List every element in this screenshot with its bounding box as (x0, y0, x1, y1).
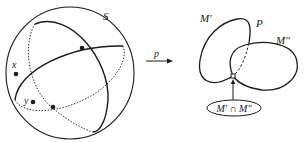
pointer-head-icon (231, 79, 235, 84)
arrow-head-icon (167, 59, 173, 64)
point-x-label: x (11, 59, 17, 70)
projective-space: M′ ∩ M″ M′ P M″ (199, 12, 297, 116)
sphere-outline (6, 7, 134, 139)
intersection-label: M′ ∩ M″ (215, 103, 252, 114)
intersection-marker (231, 74, 235, 78)
diagram-canvas: x y S p M′ ∩ M″ M′ P M″ (0, 0, 305, 142)
great-circle-1-front (35, 22, 108, 132)
set-m1-label: M′ (199, 12, 212, 24)
intersection-point-back (51, 105, 56, 110)
set-m2-label: M″ (275, 34, 290, 46)
map-label: p (153, 48, 159, 59)
point-y (31, 100, 36, 105)
space-label: P (255, 17, 263, 29)
sphere-label: S (103, 10, 109, 22)
curve-m1-hidden (233, 43, 249, 76)
sphere: x y S (6, 7, 134, 139)
point-x (14, 72, 19, 77)
great-circle-2-front (15, 46, 123, 100)
point-y-label: y (23, 95, 29, 106)
curve-m1 (200, 19, 251, 83)
intersection-point-front (80, 46, 85, 51)
map-arrow: p (146, 48, 173, 64)
